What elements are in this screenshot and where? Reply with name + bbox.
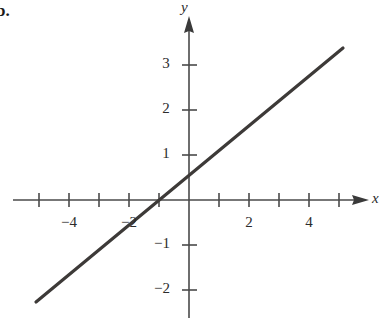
y-tick-label-neg2: −2: [150, 281, 174, 296]
y-axis-label: y: [181, 0, 188, 15]
x-tick-label-neg2: −2: [117, 215, 141, 230]
y-axis-arrow-icon: [184, 16, 194, 33]
x-tick-label-2: 2: [241, 215, 257, 230]
y-tick-label-neg1: −1: [150, 236, 174, 251]
part-label: b.: [0, 2, 10, 19]
x-tick-label-neg4: −4: [57, 215, 81, 230]
y-tick-label-1: 1: [158, 146, 174, 161]
y-tick-label-2: 2: [158, 101, 174, 116]
graph-figure: b.: [0, 0, 391, 331]
x-tick-label-4: 4: [301, 215, 317, 230]
y-tick-label-3: 3: [158, 56, 174, 71]
coordinate-plane-svg: [0, 0, 391, 331]
x-axis-arrow-icon: [352, 195, 369, 205]
x-axis-label: x: [372, 191, 379, 206]
